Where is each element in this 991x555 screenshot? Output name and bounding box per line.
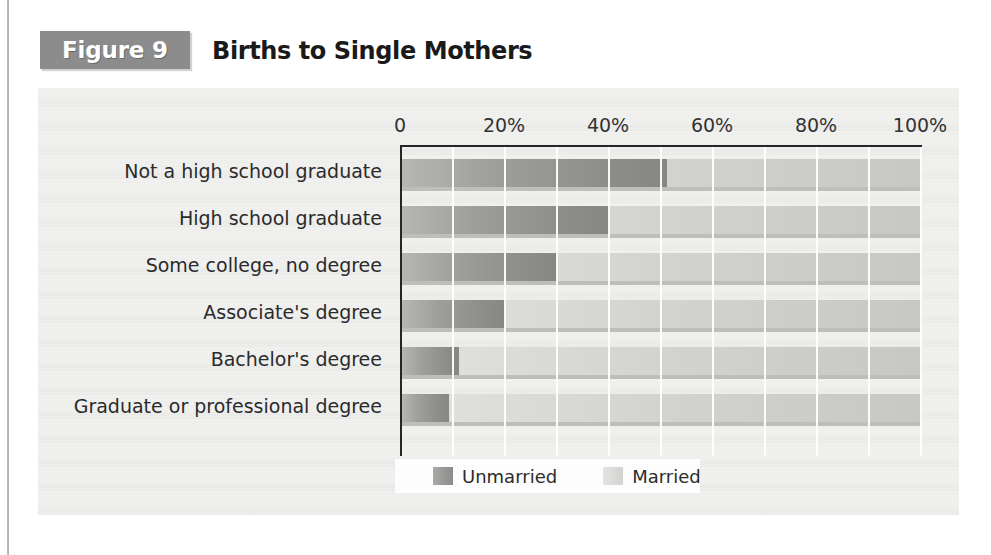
y-axis-category-label: High school graduate <box>179 204 382 232</box>
bar-shadow <box>402 375 922 379</box>
bar-segment-married <box>402 347 922 375</box>
bar-row <box>402 253 922 281</box>
bar-segment-married <box>402 394 922 422</box>
figure-number-label: Figure 9 <box>40 31 190 69</box>
x-axis-tick-20: 20% <box>483 112 525 138</box>
x-axis-tick-100: 100% <box>893 112 947 138</box>
bar-row <box>402 206 922 234</box>
bar-segment-unmarried <box>402 206 610 234</box>
chart-panel: 020%40%60%80%100% Not a high school grad… <box>38 88 959 515</box>
bar-shadow <box>402 234 922 238</box>
bar-row <box>402 300 922 328</box>
bar-shadow <box>402 328 922 332</box>
y-axis-category-label: Not a high school graduate <box>124 157 382 185</box>
legend-label-unmarried: Unmarried <box>462 466 557 487</box>
y-axis-category-label: Bachelor's degree <box>211 345 382 373</box>
legend-item-unmarried: Unmarried <box>433 459 557 493</box>
bar-segment-unmarried <box>402 347 459 375</box>
x-axis-tick-40: 40% <box>587 112 629 138</box>
bar-segment-unmarried <box>402 159 667 187</box>
scanned-page: Figure 9 Births to Single Mothers 020%40… <box>0 0 991 555</box>
married-swatch-icon <box>603 467 623 485</box>
bar-segment-unmarried <box>402 394 449 422</box>
y-axis-category-labels: Not a high school graduateHigh school gr… <box>58 145 392 454</box>
bar-shadow <box>402 422 922 426</box>
x-axis-tick-60: 60% <box>691 112 733 138</box>
plot-area <box>400 145 922 456</box>
bar-segment-unmarried <box>402 253 558 281</box>
y-axis-category-label: Graduate or professional degree <box>74 392 382 420</box>
legend-label-married: Married <box>632 466 701 487</box>
bar-row <box>402 347 922 375</box>
figure-title: Births to Single Mothers <box>212 34 532 68</box>
figure-header: Figure 9 Births to Single Mothers <box>38 28 958 76</box>
page-left-edge <box>7 0 9 555</box>
unmarried-swatch-icon <box>433 467 453 485</box>
x-axis-tick-0: 0 <box>394 112 406 138</box>
bar-row <box>402 159 922 187</box>
legend-item-married: Married <box>603 459 701 493</box>
bar-segment-unmarried <box>402 300 506 328</box>
bar-shadow <box>402 187 922 191</box>
y-axis-category-label: Associate's degree <box>203 298 382 326</box>
x-axis-tick-labels: 020%40%60%80%100% <box>38 112 959 138</box>
bar-shadow <box>402 281 922 285</box>
x-axis-tick-80: 80% <box>795 112 837 138</box>
y-axis-category-label: Some college, no degree <box>146 251 382 279</box>
figure-number-badge: Figure 9 <box>40 31 190 69</box>
chart-legend: Unmarried Married <box>395 459 700 493</box>
bar-row <box>402 394 922 422</box>
